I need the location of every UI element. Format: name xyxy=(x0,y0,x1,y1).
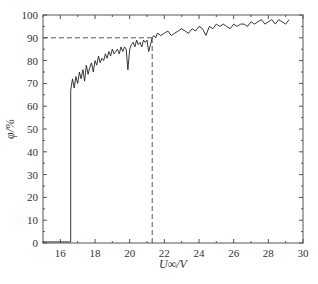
y-tick-label: 20 xyxy=(27,191,39,203)
plot-axes xyxy=(43,15,303,243)
line-chart: 16182022242628300102030405060708090100 U… xyxy=(0,0,318,284)
x-tick-label: 24 xyxy=(194,247,206,259)
x-tick-label: 16 xyxy=(55,247,67,259)
plot-frame xyxy=(43,15,303,243)
x-tick-label: 28 xyxy=(263,247,275,259)
x-tick-label: 18 xyxy=(90,247,102,259)
figure-caption xyxy=(40,272,318,284)
y-tick-label: 0 xyxy=(33,237,39,249)
y-tick-label: 60 xyxy=(27,100,39,112)
x-tick-label: 20 xyxy=(124,247,136,259)
y-tick-label: 30 xyxy=(27,169,39,181)
reference-dashed-lines xyxy=(43,38,152,243)
y-tick-label: 10 xyxy=(27,214,39,226)
x-axis-label: U∞/V xyxy=(159,257,189,271)
axis-ticks: 16182022242628300102030405060708090100 xyxy=(22,9,310,259)
y-tick-label: 80 xyxy=(27,55,39,67)
y-tick-label: 90 xyxy=(27,32,39,44)
series-line xyxy=(43,20,289,242)
x-tick-label: 26 xyxy=(228,247,240,259)
y-tick-label: 40 xyxy=(27,146,39,158)
data-series xyxy=(43,20,289,242)
y-tick-label: 70 xyxy=(27,77,39,89)
y-tick-label: 50 xyxy=(27,123,39,135)
y-axis-label: φ/% xyxy=(3,119,17,139)
y-tick-label: 100 xyxy=(22,9,39,21)
x-tick-label: 30 xyxy=(298,247,310,259)
